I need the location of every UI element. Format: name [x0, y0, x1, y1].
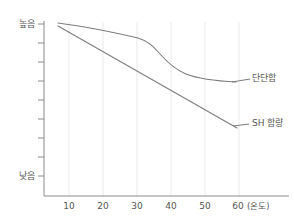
x-tick-label-20: 20: [97, 201, 109, 211]
x-tick-label-50: 50: [199, 201, 211, 211]
y-axis-low-label: 낮음: [19, 171, 35, 181]
x-tick-label-10: 10: [63, 201, 75, 211]
series-label-sh-content: SH 함량: [252, 117, 283, 128]
x-tick-label-30: 30: [131, 201, 143, 211]
x-tick-label-60: 60: [232, 201, 244, 211]
chart-container: 높음 낮음 10 20 30 40 50 60 (온도) 단단함 SH 함량: [0, 0, 294, 221]
x-axis-unit-label: (온도): [247, 201, 270, 211]
line-chart: 높음 낮음 10 20 30 40 50 60 (온도) 단단함 SH 함량: [0, 0, 294, 221]
series-label-firmness: 단단함: [252, 73, 276, 83]
x-tick-label-40: 40: [165, 201, 177, 211]
y-axis-high-label: 높음: [19, 19, 35, 29]
